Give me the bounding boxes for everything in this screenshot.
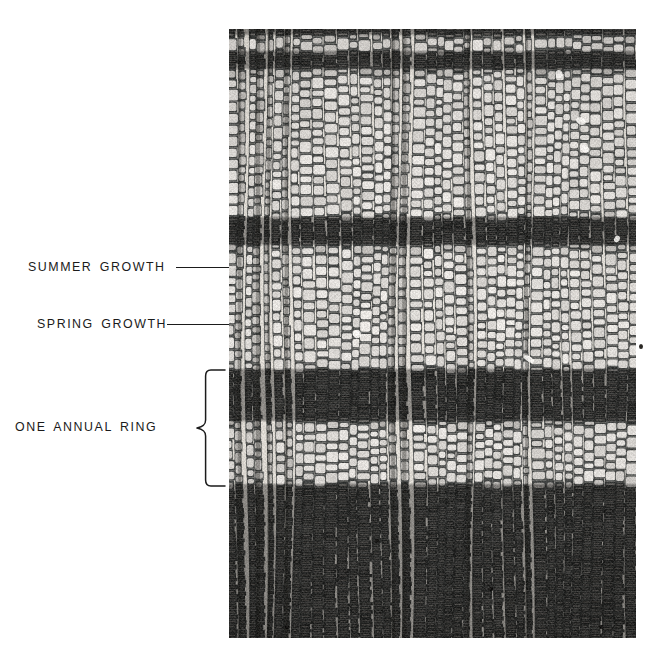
dust-speck [639, 344, 643, 349]
leader-line-spring-growth [167, 324, 229, 325]
leader-line-summer-growth [176, 267, 229, 268]
label-spring-growth: SPRING GROWTH [37, 318, 167, 330]
wood-photomicrograph [229, 29, 636, 638]
label-summer-growth: SUMMER GROWTH [28, 261, 166, 273]
label-one-annual-ring: ONE ANNUAL RING [15, 421, 157, 433]
figure-root: SUMMER GROWTH SPRING GROWTH ONE ANNUAL R… [0, 0, 652, 665]
curly-brace-icon [192, 368, 226, 488]
wood-section-canvas [229, 29, 636, 638]
